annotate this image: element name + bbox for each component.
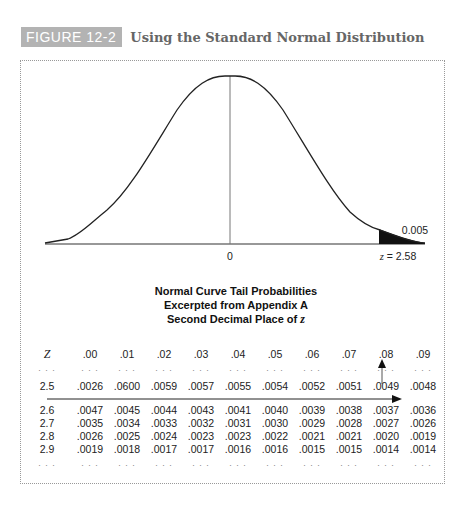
table-cell: .0059 [144, 380, 184, 392]
ellipsis: . . . [255, 363, 295, 373]
table-cell: .0033 [144, 417, 184, 429]
ellipsis: . . . [403, 363, 443, 373]
table-cell: .0026 [403, 417, 443, 429]
table-cell: .0015 [329, 443, 369, 455]
table-cell: .0041 [218, 404, 258, 416]
ellipsis: . . . [107, 363, 147, 373]
table-cell: .0014 [403, 443, 443, 455]
ellipsis: . . . [366, 363, 406, 373]
ellipsis: . . . [329, 458, 369, 468]
ellipsis: . . . [403, 458, 443, 468]
table-cell: .0055 [218, 380, 258, 392]
row-z-value: 2.7 [27, 417, 67, 429]
table-cell: .0026 [70, 380, 110, 392]
ellipsis: . . . [27, 458, 67, 468]
row-z-value: 2.5 [27, 380, 67, 392]
table-title-line-3: Second Decimal Place of z [0, 312, 472, 326]
table-cell: .0016 [218, 443, 258, 455]
row-arrow-head [392, 395, 402, 403]
table-cell: .0051 [329, 380, 369, 392]
table-cell: .0019 [403, 430, 443, 442]
ellipsis: . . . [181, 458, 221, 468]
table-title-z: z [300, 312, 305, 326]
ellipsis: . . . [70, 363, 110, 373]
table-cell: .0015 [292, 443, 332, 455]
table-cell: .0019 [70, 443, 110, 455]
ellipsis: . . . [292, 363, 332, 373]
table-cell: .0057 [181, 380, 221, 392]
column-header: .02 [144, 348, 184, 360]
table-cell: .0040 [255, 404, 295, 416]
table-cell: .0025 [107, 430, 147, 442]
table-title: Normal Curve Tail Probabilities Excerpte… [0, 284, 472, 326]
ellipsis: . . . [181, 363, 221, 373]
column-header: .04 [218, 348, 258, 360]
table-title-line-2: Excerpted from Appendix A [0, 298, 472, 312]
table-cell: .0021 [292, 430, 332, 442]
table-cell: .0023 [218, 430, 258, 442]
center-label: 0 [210, 250, 250, 262]
column-header: .05 [255, 348, 295, 360]
ellipsis: . . . [218, 363, 258, 373]
ellipsis: . . . [70, 458, 110, 468]
table-cell: .0024 [144, 430, 184, 442]
table-cell: .0039 [292, 404, 332, 416]
ellipsis: . . . [144, 458, 184, 468]
table-cell: .0014 [366, 443, 406, 455]
column-header: .07 [329, 348, 369, 360]
ellipsis: . . . [144, 363, 184, 373]
table-title-line-3-text: Second Decimal Place of [167, 313, 300, 325]
table-cell: .0036 [403, 404, 443, 416]
table-cell: .0032 [181, 417, 221, 429]
table-cell: .0047 [70, 404, 110, 416]
column-header: .03 [181, 348, 221, 360]
table-cell: .0026 [70, 430, 110, 442]
ellipsis: . . . [292, 458, 332, 468]
table-cell: .0023 [181, 430, 221, 442]
bell-curve [45, 76, 425, 243]
ellipsis: . . . [218, 458, 258, 468]
column-header: .06 [292, 348, 332, 360]
table-cell: .0022 [255, 430, 295, 442]
table-cell: .0054 [255, 380, 295, 392]
ellipsis: . . . [107, 458, 147, 468]
column-header: .09 [403, 348, 443, 360]
table-cell: .0052 [292, 380, 332, 392]
table-cell: .0600 [107, 380, 147, 392]
column-header: .00 [70, 348, 110, 360]
table-cell: .0017 [144, 443, 184, 455]
table-title-line-1: Normal Curve Tail Probabilities [0, 284, 472, 298]
z-column-header: Z [27, 347, 67, 362]
table-cell: .0030 [255, 417, 295, 429]
row-z-value: 2.8 [27, 430, 67, 442]
row-z-value: 2.9 [27, 443, 67, 455]
table-cell: .0018 [107, 443, 147, 455]
ellipsis: . . . [366, 458, 406, 468]
table-cell: .0027 [366, 417, 406, 429]
column-header: .01 [107, 348, 147, 360]
table-cell: .0043 [181, 404, 221, 416]
column-header: .08 [366, 348, 406, 360]
tail-probability-label: 0.005 [395, 224, 435, 236]
table-cell: .0048 [403, 380, 443, 392]
table-cell: .0049 [366, 380, 406, 392]
table-cell: .0029 [292, 417, 332, 429]
table-cell: .0016 [255, 443, 295, 455]
ellipsis: . . . [27, 363, 67, 373]
table-cell: .0021 [329, 430, 369, 442]
table-cell: .0034 [107, 417, 147, 429]
table-cell: .0038 [329, 404, 369, 416]
z-label: z = 2.58 [368, 250, 428, 262]
table-cell: .0028 [329, 417, 369, 429]
ellipsis: . . . [329, 363, 369, 373]
table-cell: .0020 [366, 430, 406, 442]
table-cell: .0035 [70, 417, 110, 429]
table-cell: .0045 [107, 404, 147, 416]
table-cell: .0031 [218, 417, 258, 429]
table-cell: .0017 [181, 443, 221, 455]
table-cell: .0044 [144, 404, 184, 416]
table-cell: .0037 [366, 404, 406, 416]
row-z-value: 2.6 [27, 404, 67, 416]
ellipsis: . . . [255, 458, 295, 468]
